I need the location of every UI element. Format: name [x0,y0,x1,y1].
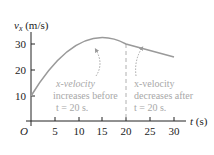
x-tick-label: 15 [97,125,109,137]
y-tick-label: 10 [15,90,27,102]
svg-text:increases before: increases before [53,90,118,101]
arrow-increase-icon [96,50,100,76]
x-tick-label: 20 [121,125,133,137]
origin-label: O [20,125,28,137]
arrow-decrease-icon [136,48,142,76]
x-tick-label: 30 [169,125,181,137]
y-tick-label: 20 [15,64,27,76]
svg-text:x-velocity: x-velocity [55,78,95,89]
svg-text:decreases after: decreases after [134,90,194,101]
annotation-decrease: x-velocity decreases after t = 20 s. [134,78,194,113]
x-axis-title: t (s) [190,115,208,128]
y-ticks [31,44,35,96]
velocity-time-chart: 30 20 10 5 10 15 20 25 30 O vx (m/s) t (… [0,0,214,155]
x-tick-label: 25 [145,125,157,137]
svg-text:t = 20 s.: t = 20 s. [56,102,88,113]
svg-text:t = 20 s.: t = 20 s. [134,102,166,113]
x-tick-label: 5 [52,125,58,137]
x-tick-label: 10 [74,125,86,137]
annotation-increase: x-velocity increases before t = 20 s. [53,78,118,113]
x-ticks [55,117,174,121]
y-axis-title: vx (m/s) [14,19,49,33]
svg-text:x-velocity: x-velocity [134,78,175,89]
y-tick-label: 30 [15,38,27,50]
